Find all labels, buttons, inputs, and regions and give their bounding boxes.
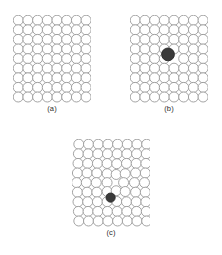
figure-root: (a)(b)(c) bbox=[0, 0, 222, 255]
lattice-atom bbox=[169, 73, 179, 83]
lattice-atom bbox=[140, 168, 150, 178]
lattice-atom bbox=[122, 216, 132, 226]
lattice-atom bbox=[130, 34, 140, 44]
lattice-atom bbox=[83, 158, 93, 168]
lattice-atom bbox=[198, 34, 208, 44]
lattice-atom bbox=[122, 206, 132, 216]
lattice-atom bbox=[188, 54, 198, 64]
lattice-atom bbox=[74, 139, 84, 149]
lattice-atom bbox=[33, 54, 43, 64]
lattice-atom bbox=[142, 216, 150, 226]
lattice-atom bbox=[23, 34, 33, 44]
lattice-atom bbox=[112, 149, 122, 159]
lattice-atom bbox=[198, 15, 208, 25]
lattice-atom bbox=[129, 178, 139, 188]
lattice-atom bbox=[62, 34, 72, 44]
lattice-atom bbox=[132, 139, 142, 149]
lattice-atom bbox=[150, 92, 160, 102]
lattice-atom bbox=[74, 216, 84, 226]
lattice-atom bbox=[71, 63, 81, 73]
lattice-atom bbox=[73, 197, 83, 207]
lattice-atom bbox=[130, 44, 140, 54]
lattice-atom bbox=[159, 25, 169, 35]
lattice-atom bbox=[122, 149, 132, 159]
lattice-atom bbox=[111, 169, 121, 179]
lattice-atom bbox=[121, 197, 131, 207]
lattice-atom bbox=[62, 63, 72, 73]
lattice-atom bbox=[198, 73, 208, 83]
lattice-atom bbox=[121, 158, 131, 168]
lattice-atom bbox=[83, 206, 93, 216]
lattice-atom bbox=[84, 216, 94, 226]
lattice-atom bbox=[62, 25, 72, 35]
lattice-atom bbox=[13, 92, 23, 102]
lattice-atom bbox=[198, 44, 208, 54]
lattice-atom bbox=[131, 158, 141, 168]
lattice-atom bbox=[150, 44, 160, 54]
lattice-atom bbox=[42, 15, 52, 25]
lattice-atom bbox=[150, 73, 160, 83]
lattice-atom bbox=[169, 92, 179, 102]
lattice-atom bbox=[33, 73, 43, 83]
lattice-atom bbox=[72, 187, 82, 197]
lattice-atom bbox=[103, 206, 113, 216]
lattice-atom bbox=[52, 63, 62, 73]
lattice-atom bbox=[13, 63, 23, 73]
lattice-atom bbox=[188, 25, 198, 35]
lattice-atom bbox=[179, 34, 189, 44]
lattice-atom bbox=[131, 168, 141, 178]
lattice-atom bbox=[52, 92, 62, 102]
lattice-atom bbox=[81, 25, 91, 35]
lattice-atom bbox=[179, 44, 189, 54]
lattice-atom bbox=[42, 82, 52, 92]
lattice-atom bbox=[188, 82, 198, 92]
lattice-atom bbox=[52, 54, 62, 64]
lattice-atom bbox=[130, 92, 140, 102]
lattice-atom bbox=[81, 73, 91, 83]
lattice-atom bbox=[150, 34, 160, 44]
lattice-atom bbox=[83, 149, 93, 159]
lattice-atom bbox=[188, 15, 198, 25]
lattice-atom bbox=[33, 92, 43, 102]
lattice-atom bbox=[71, 25, 81, 35]
lattice-atom bbox=[169, 15, 179, 25]
lattice-atom bbox=[122, 139, 132, 149]
lattice-atom bbox=[81, 92, 91, 102]
lattice-atom bbox=[140, 187, 150, 197]
lattice-atom bbox=[150, 82, 160, 92]
lattice-atom bbox=[112, 206, 122, 216]
lattice-atom bbox=[132, 149, 142, 159]
lattice-atom bbox=[73, 158, 83, 168]
panel-b-lattice bbox=[130, 15, 208, 103]
lattice-atom bbox=[131, 197, 141, 207]
lattice-atom bbox=[140, 178, 150, 188]
panel-b: (b) bbox=[130, 15, 208, 103]
lattice-atom bbox=[71, 44, 81, 54]
lattice-atom bbox=[42, 63, 52, 73]
lattice-atom bbox=[62, 92, 72, 102]
lattice-atom bbox=[169, 25, 179, 35]
panel-a: (a) bbox=[13, 15, 91, 103]
lattice-atom bbox=[179, 63, 189, 73]
lattice-atom bbox=[81, 63, 91, 73]
lattice-atom bbox=[142, 139, 150, 149]
lattice-atom bbox=[42, 44, 52, 54]
lattice-atom bbox=[120, 169, 130, 179]
lattice-atom bbox=[72, 178, 82, 188]
lattice-atom bbox=[103, 149, 113, 159]
lattice-atom bbox=[52, 82, 62, 92]
lattice-atom bbox=[13, 25, 23, 35]
lattice-atom bbox=[140, 73, 150, 83]
lattice-atom bbox=[42, 73, 52, 83]
lattice-atom bbox=[159, 34, 169, 44]
lattice-atom bbox=[198, 63, 208, 73]
lattice-atom bbox=[73, 149, 83, 159]
lattice-atom bbox=[92, 197, 102, 207]
lattice-atom bbox=[159, 82, 169, 92]
lattice-atom bbox=[140, 54, 150, 64]
lattice-atom bbox=[42, 54, 52, 64]
panel-c-lattice bbox=[72, 139, 150, 227]
lattice-atom bbox=[188, 92, 198, 102]
lattice-atom bbox=[141, 197, 150, 207]
lattice-atom bbox=[71, 82, 81, 92]
